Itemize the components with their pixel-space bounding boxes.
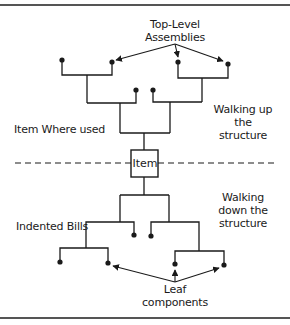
leaf-arrows: [113, 266, 219, 282]
node-dot: [59, 57, 64, 62]
top-level-assemblies-label: Top-Level Assemblies: [135, 18, 215, 44]
node-dot: [57, 259, 62, 264]
leaf-nodes: [57, 232, 226, 267]
node-dot: [148, 233, 153, 238]
bom-structure-diagram: Top-Level Assemblies Item Where used Wal…: [0, 0, 290, 325]
node-dot: [131, 232, 136, 237]
leaf-components-label: Leaf components: [135, 283, 215, 309]
top-level-arrows: [116, 44, 223, 61]
node-dot: [105, 260, 110, 265]
node-dot: [175, 59, 180, 64]
node-dot: [133, 87, 138, 92]
where-used-tree: [62, 60, 228, 150]
walking-down-label: Walking down the structure: [208, 191, 278, 230]
node-dot: [225, 61, 230, 66]
node-dot: [172, 261, 177, 266]
indented-bills-label: Indented Bills: [16, 220, 88, 233]
where-used-label: Item Where used: [14, 123, 105, 136]
node-dot: [221, 262, 226, 267]
walking-up-label: Walking up the structure: [208, 103, 278, 142]
node-dot: [109, 59, 114, 64]
node-dot: [150, 87, 155, 92]
item-label: Item: [131, 157, 159, 170]
